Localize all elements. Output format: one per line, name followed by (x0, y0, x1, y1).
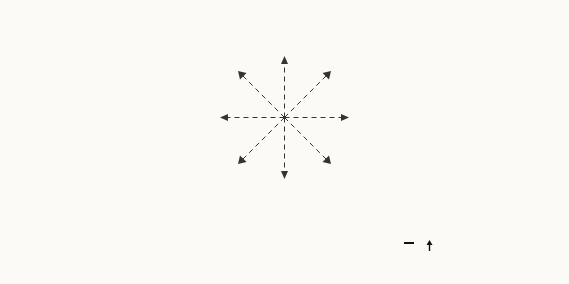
movement-begins-arrow-icon (425, 240, 434, 251)
star-arrows-icon (213, 55, 356, 180)
target-appears-marker (404, 242, 414, 244)
raster-figure (0, 0, 569, 284)
movement-direction-star (213, 55, 356, 180)
